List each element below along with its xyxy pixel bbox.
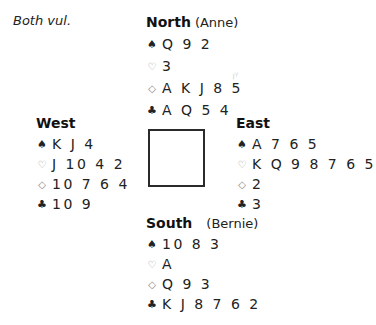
suit-row-spades: ♠A 7 6 5: [236, 134, 376, 154]
hand-title: East: [236, 112, 376, 134]
seat-label: North: [146, 14, 191, 30]
heart-icon: ♡: [146, 259, 158, 270]
suit-row-diamonds: ◇2: [236, 174, 376, 194]
hand-west: West ♠K J 4 ♡J 10 4 2 ◇10 7 6 4 ♣10 9: [36, 112, 130, 214]
suit-row-clubs: ♣K J 8 7 6 2: [146, 294, 261, 314]
spade-icon: ♠: [146, 38, 158, 51]
suit-row-diamonds: ◇10 7 6 4: [36, 174, 130, 194]
cards: 10 7 6 4: [52, 176, 130, 192]
club-icon: ♣: [146, 104, 158, 117]
cards: K Q 9 8 7 6 5: [252, 156, 376, 172]
cards: 2: [252, 176, 263, 192]
cards: 3: [162, 58, 173, 74]
cards: 10 9: [52, 196, 93, 212]
pencil-mark-artifact: ıᵞ: [231, 70, 239, 82]
cards: A Q 5 4: [162, 102, 231, 118]
suit-row-diamonds: ◇A K J 8 5: [146, 77, 243, 99]
suit-row-clubs: ♣A Q 5 4: [146, 99, 243, 121]
cards: 10 8 3: [162, 236, 222, 252]
club-icon: ♣: [146, 298, 158, 311]
hand-east: East ♠A 7 6 5 ♡K Q 9 8 7 6 5 ◇2 ♣3: [236, 112, 376, 214]
spade-icon: ♠: [146, 238, 158, 251]
cards: 3: [252, 196, 263, 212]
cards: J 10 4 2: [52, 156, 125, 172]
suit-row-hearts: ♡K Q 9 8 7 6 5: [236, 154, 376, 174]
club-icon: ♣: [36, 198, 48, 211]
heart-icon: ♡: [146, 61, 158, 72]
hand-title: West: [36, 112, 130, 134]
hand-title: North(Anne): [146, 11, 243, 33]
heart-icon: ♡: [236, 159, 248, 170]
spade-icon: ♠: [236, 138, 248, 151]
cards: A K J 8 5: [162, 80, 243, 96]
heart-icon: ♡: [36, 159, 48, 170]
diamond-icon: ◇: [146, 83, 158, 94]
suit-row-spades: ♠Q 9 2: [146, 33, 243, 55]
cards: A: [162, 256, 174, 272]
hand-north: North(Anne) ♠Q 9 2 ♡3 ◇A K J 8 5 ♣A Q 5 …: [146, 11, 243, 121]
vulnerability-label: Both vul.: [13, 13, 71, 28]
suit-row-clubs: ♣3: [236, 194, 376, 214]
hand-title: South(Bernie): [146, 212, 261, 234]
suit-row-clubs: ♣10 9: [36, 194, 130, 214]
table-diagram-box: [148, 129, 205, 187]
suit-row-spades: ♠10 8 3: [146, 234, 261, 254]
seat-label: South: [146, 215, 192, 231]
cards: K J 4: [52, 136, 96, 152]
suit-row-hearts: ♡J 10 4 2: [36, 154, 130, 174]
cards: Q 9 2: [162, 36, 212, 52]
diamond-icon: ◇: [236, 179, 248, 190]
player-name: (Anne): [195, 15, 239, 30]
spade-icon: ♠: [36, 138, 48, 151]
cards: K J 8 7 6 2: [162, 296, 261, 312]
seat-label: East: [236, 115, 270, 131]
hand-south: South(Bernie) ♠10 8 3 ♡A ◇Q 9 3 ♣K J 8 7…: [146, 212, 261, 314]
cards: Q 9 3: [162, 276, 212, 292]
diamond-icon: ◇: [146, 279, 158, 290]
club-icon: ♣: [236, 198, 248, 211]
suit-row-spades: ♠K J 4: [36, 134, 130, 154]
suit-row-diamonds: ◇Q 9 3: [146, 274, 261, 294]
player-name: (Bernie): [206, 216, 258, 231]
cards: A 7 6 5: [252, 136, 319, 152]
suit-row-hearts: ♡3: [146, 55, 243, 77]
diamond-icon: ◇: [36, 179, 48, 190]
suit-row-hearts: ♡A: [146, 254, 261, 274]
seat-label: West: [36, 115, 75, 131]
